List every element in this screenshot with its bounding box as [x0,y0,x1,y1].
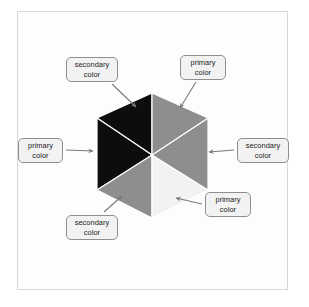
arrow-right [209,150,234,152]
callout-right: secondary color [237,138,289,163]
arrow-bottom-left [104,196,122,212]
arrow-bottom-right [176,198,202,204]
callout-top-right: primary color [180,55,226,80]
arrow-top-right [180,82,196,108]
callout-bottom-right: primary color [205,192,251,217]
callout-left: primary color [18,138,63,163]
callout-bottom-left: secondary color [66,215,118,240]
arrow-left [66,150,93,151]
cube-diagram: secondary color primary color primary co… [0,0,309,307]
arrow-top-left [112,84,136,107]
callout-top-left: secondary color [66,57,118,82]
